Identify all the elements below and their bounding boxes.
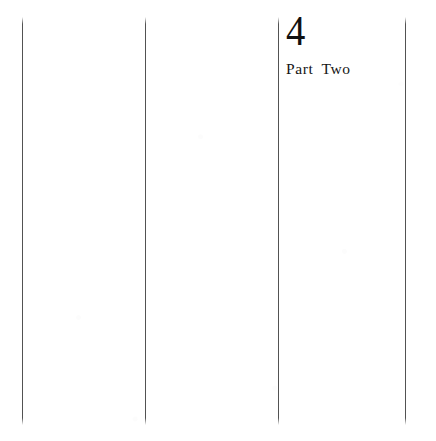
chapter-heading-block: 4 Part Two bbox=[286, 10, 351, 77]
chapter-number: 4 bbox=[286, 10, 346, 52]
column-rule-1 bbox=[22, 17, 23, 425]
part-label: Part Two bbox=[286, 61, 351, 77]
column-rule-3 bbox=[278, 17, 279, 425]
column-rule-4 bbox=[405, 17, 406, 425]
scanned-page: 4 Part Two bbox=[0, 0, 436, 441]
paper-background bbox=[0, 0, 436, 441]
column-rule-2 bbox=[145, 17, 146, 425]
